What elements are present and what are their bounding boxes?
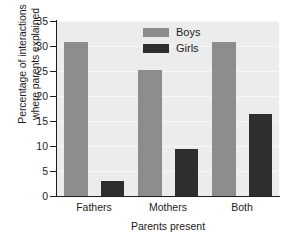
- gridline: [57, 171, 279, 172]
- y-axis-line: [56, 20, 57, 197]
- bar-fathers-girls: [101, 181, 125, 196]
- legend-swatch-girls: [143, 44, 169, 53]
- bar-fathers-boys: [64, 42, 88, 196]
- bar-mothers-boys: [138, 70, 162, 197]
- y-tick-label: 0: [0, 191, 48, 202]
- legend-entry-boys: Boys: [143, 27, 200, 38]
- y-tick-label: 5: [0, 166, 48, 177]
- legend-label-boys: Boys: [176, 27, 200, 38]
- y-tick-label: 25: [0, 66, 48, 77]
- bar-both-boys: [212, 42, 236, 196]
- gridline: [57, 146, 279, 147]
- x-axis-title: Parents present: [57, 221, 279, 232]
- x-tick-label-both: Both: [202, 202, 282, 213]
- plot-area: Boys Girls: [57, 21, 279, 196]
- legend-entry-girls: Girls: [143, 43, 200, 54]
- legend-swatch-boys: [143, 28, 169, 37]
- gridline: [57, 71, 279, 72]
- x-tick-label-fathers: Fathers: [54, 202, 134, 213]
- gridline: [57, 121, 279, 122]
- gridline: [57, 96, 279, 97]
- y-tick-label: 10: [0, 141, 48, 152]
- bar-mothers-girls: [175, 149, 199, 196]
- legend: Boys Girls: [143, 27, 200, 54]
- y-tick-label: 30: [0, 41, 48, 52]
- gridline: [57, 21, 279, 22]
- x-tick-label-mothers: Mothers: [128, 202, 208, 213]
- x-axis-line: [56, 196, 280, 197]
- legend-label-girls: Girls: [176, 43, 199, 54]
- bar-chart-figure: Percentage of interactions where parents…: [0, 0, 293, 251]
- y-tick-label: 20: [0, 91, 48, 102]
- y-tick-label: 15: [0, 116, 48, 127]
- y-tick-label: 35: [0, 16, 48, 27]
- bar-both-girls: [249, 114, 273, 196]
